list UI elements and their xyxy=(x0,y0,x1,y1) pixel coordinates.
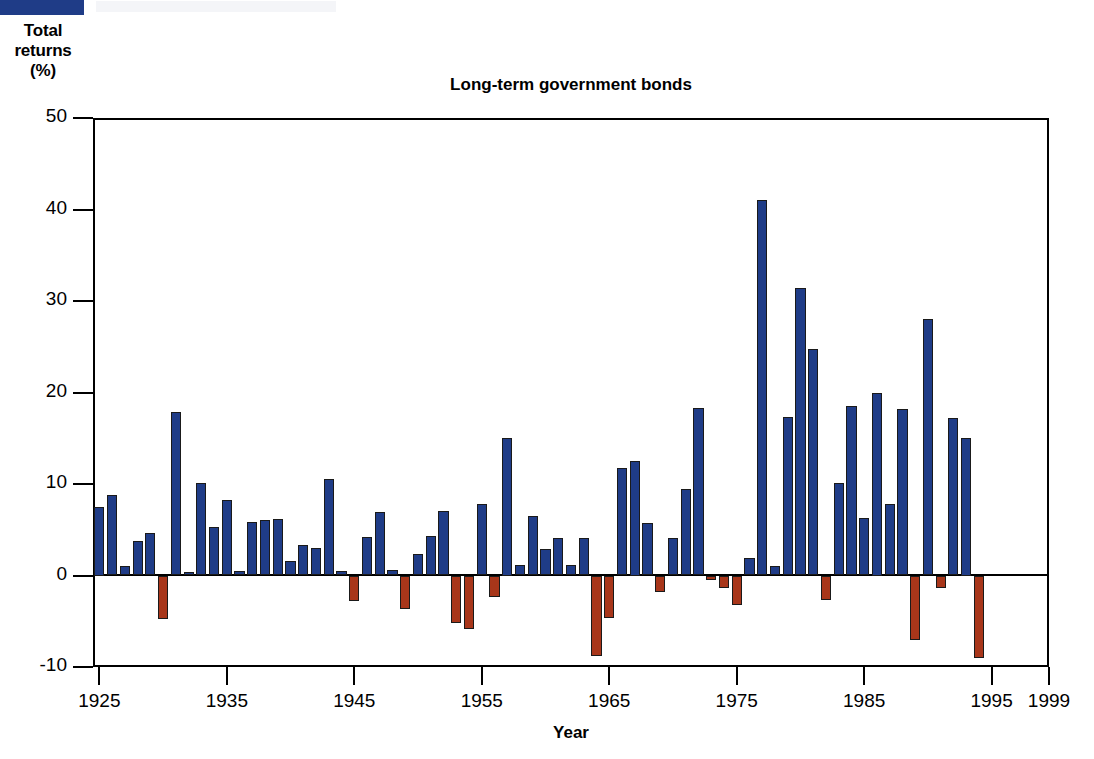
bar-1930 xyxy=(158,576,168,619)
x-tick-1999 xyxy=(1048,667,1050,685)
bar-1929 xyxy=(145,533,155,575)
x-tick-label-1999: 1999 xyxy=(1004,690,1094,712)
bar-1966 xyxy=(617,468,627,576)
bar-1956 xyxy=(489,576,499,598)
bar-1935 xyxy=(222,500,232,576)
y-tick-label-40: 40 xyxy=(5,197,67,219)
chart-title: Long-term government bonds xyxy=(93,75,1049,95)
bar-1962 xyxy=(566,565,576,576)
bar-1990 xyxy=(923,319,933,575)
bar-1958 xyxy=(515,565,525,576)
x-tick-label-1985: 1985 xyxy=(819,690,909,712)
bar-1960 xyxy=(540,549,550,576)
bar-1986 xyxy=(872,393,882,576)
y-tick-10 xyxy=(73,483,93,485)
bar-1942 xyxy=(311,548,321,575)
bar-1968 xyxy=(642,523,652,575)
bar-1973 xyxy=(706,576,716,581)
x-tick-label-1925: 1925 xyxy=(54,690,144,712)
bar-1925 xyxy=(94,507,104,576)
bar-1953 xyxy=(451,576,461,624)
bar-1957 xyxy=(502,438,512,575)
y-tick-label-20: 20 xyxy=(5,380,67,402)
bar-1940 xyxy=(285,561,295,576)
bar-1928 xyxy=(133,541,143,576)
bar-1936 xyxy=(234,571,244,576)
bar-1964 xyxy=(591,576,601,657)
bar-1946 xyxy=(362,537,372,575)
y-tick-30 xyxy=(73,300,93,302)
bar-1944 xyxy=(336,571,346,576)
plot-area xyxy=(95,120,1047,665)
bar-1992 xyxy=(948,418,958,575)
bar-1931 xyxy=(171,412,181,576)
bar-1978 xyxy=(770,566,780,575)
x-tick-1995 xyxy=(991,667,993,685)
x-tick-label-1965: 1965 xyxy=(564,690,654,712)
bar-1950 xyxy=(413,554,423,576)
y-tick-50 xyxy=(73,117,93,119)
x-tick-label-1955: 1955 xyxy=(437,690,527,712)
bar-1983 xyxy=(834,483,844,575)
bar-1926 xyxy=(107,495,117,576)
x-axis-title: Year xyxy=(93,723,1049,743)
bar-1971 xyxy=(681,489,691,575)
y-axis-title: Total returns (%) xyxy=(0,21,86,81)
bar-1985 xyxy=(859,518,869,576)
y-tick-40 xyxy=(73,209,93,211)
bar-1948 xyxy=(387,570,397,575)
bar-1972 xyxy=(693,408,703,575)
x-tick-1945 xyxy=(353,667,355,685)
bar-1963 xyxy=(579,538,589,576)
bar-1984 xyxy=(846,406,856,575)
y-tick-label-10: 10 xyxy=(5,471,67,493)
bar-1980 xyxy=(795,288,805,575)
bar-1994 xyxy=(974,576,984,658)
y-tick-label-30: 30 xyxy=(5,288,67,310)
bar-1974 xyxy=(719,576,729,589)
bar-1945 xyxy=(349,576,359,602)
bar-1981 xyxy=(808,349,818,576)
bar-1967 xyxy=(630,461,640,575)
bar-1938 xyxy=(260,520,270,576)
bar-1991 xyxy=(936,576,946,589)
bar-1927 xyxy=(120,566,130,575)
bar-1977 xyxy=(757,200,767,575)
x-tick-label-1935: 1935 xyxy=(182,690,272,712)
y-axis-title-line2: returns xyxy=(0,41,86,61)
y-tick-0 xyxy=(73,575,93,577)
header-accent-band xyxy=(0,0,84,15)
x-tick-1985 xyxy=(863,667,865,685)
bar-1987 xyxy=(885,504,895,575)
bar-1975 xyxy=(732,576,742,605)
y-tick-label--10: -10 xyxy=(5,654,67,676)
bar-1932 xyxy=(184,572,194,576)
y-axis-title-line1: Total xyxy=(0,21,86,41)
bar-1952 xyxy=(438,511,448,575)
bar-1951 xyxy=(426,536,436,575)
bar-1969 xyxy=(655,576,665,592)
y-axis-title-line3: (%) xyxy=(0,61,86,81)
bar-1934 xyxy=(209,527,219,575)
x-tick-1975 xyxy=(736,667,738,685)
x-tick-label-1975: 1975 xyxy=(692,690,782,712)
bar-1939 xyxy=(273,519,283,576)
y-tick-label-50: 50 xyxy=(5,105,67,127)
bar-1937 xyxy=(247,522,257,575)
bar-1954 xyxy=(464,576,474,629)
x-tick-1955 xyxy=(481,667,483,685)
bar-1965 xyxy=(604,576,614,618)
x-tick-1935 xyxy=(226,667,228,685)
bar-1989 xyxy=(910,576,920,640)
bar-1976 xyxy=(744,558,754,575)
bar-1988 xyxy=(897,409,907,576)
bar-1959 xyxy=(528,516,538,575)
y-tick--10 xyxy=(73,666,93,668)
bar-1947 xyxy=(375,512,385,575)
x-tick-1925 xyxy=(98,667,100,685)
x-tick-label-1945: 1945 xyxy=(309,690,399,712)
bar-1993 xyxy=(961,438,971,575)
bar-1982 xyxy=(821,576,831,601)
bar-1949 xyxy=(400,576,410,610)
bar-1941 xyxy=(298,545,308,575)
